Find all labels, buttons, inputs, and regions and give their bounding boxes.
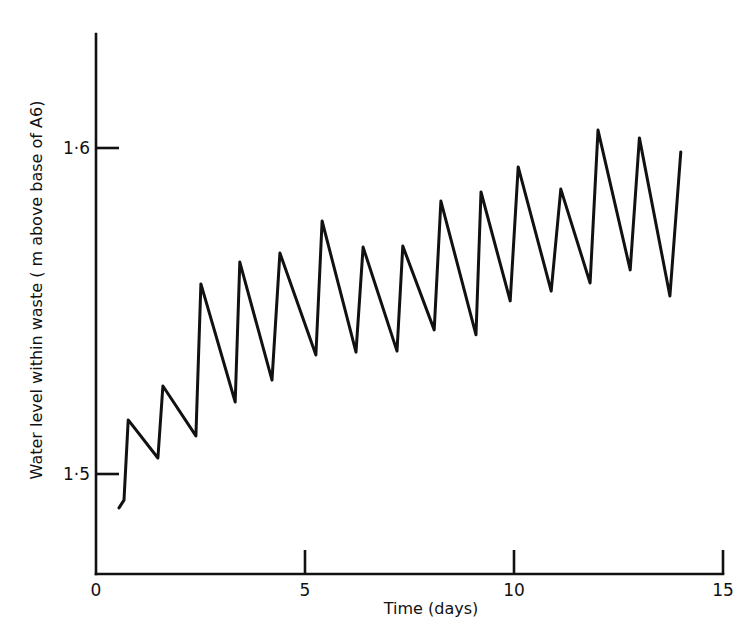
y-axis-title: Water level within waste ( m above base … <box>27 101 46 480</box>
axes <box>96 34 723 574</box>
x-axis-title: Time (days) <box>383 599 479 618</box>
x-tick-label: 10 <box>503 580 525 600</box>
x-tick-label: 15 <box>712 580 734 600</box>
line-chart: 1·51·6 051015 Time (days) Water level wi… <box>0 0 755 643</box>
y-ticks: 1·51·6 <box>63 138 119 484</box>
y-tick-label: 1·6 <box>63 138 90 158</box>
water-level-line <box>119 130 681 508</box>
y-tick-label: 1·5 <box>63 464 90 484</box>
x-tick-label: 0 <box>91 580 102 600</box>
x-tick-label: 5 <box>300 580 311 600</box>
